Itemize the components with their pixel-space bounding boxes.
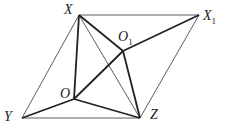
segment-o1-z xyxy=(123,51,140,118)
label-o: O xyxy=(60,87,70,101)
label-x1: X1 xyxy=(203,9,216,26)
diagram-lines xyxy=(0,0,226,130)
segment-o1-x1 xyxy=(123,15,199,51)
segment-x-o xyxy=(74,15,79,99)
label-x: X xyxy=(64,3,73,17)
label-o1: O1 xyxy=(118,30,133,47)
segment-x1-z xyxy=(140,15,199,118)
segment-o-o1 xyxy=(74,51,123,99)
segment-x-o1 xyxy=(79,15,123,51)
geometry-diagram: X X1 O1 O Y Z xyxy=(0,0,226,130)
segment-o-y xyxy=(22,99,74,118)
label-z: Z xyxy=(150,108,158,122)
segment-x-y xyxy=(22,15,79,118)
label-y: Y xyxy=(4,110,12,124)
